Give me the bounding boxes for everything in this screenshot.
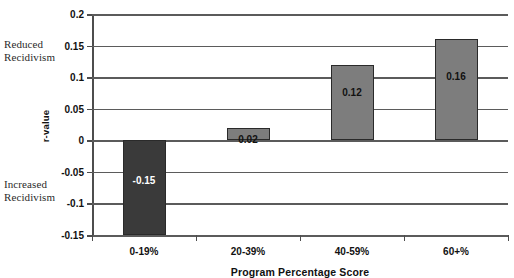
- y-axis-title: r-value: [40, 96, 51, 156]
- bar: [435, 39, 478, 140]
- y-axis-tick: [87, 172, 92, 174]
- bar: [331, 65, 374, 141]
- y-axis-tick: [87, 140, 92, 142]
- x-axis-tick: [404, 235, 405, 241]
- y-axis-tick: [87, 109, 92, 111]
- annotation-reduced-recidivism: Reduced Recidivism: [4, 38, 55, 64]
- y-axis-tick-label: 0.2: [70, 9, 84, 20]
- annotation-increased-recidivism: Increased Recidivism: [4, 178, 55, 204]
- y-axis-tick-label: -0.05: [61, 166, 84, 177]
- x-axis-title: Program Percentage Score: [92, 266, 508, 278]
- y-axis-line: [92, 14, 94, 235]
- x-axis-category-label: 0-19%: [130, 246, 159, 257]
- x-axis-tick: [92, 235, 93, 241]
- y-axis-tick: [87, 203, 92, 205]
- gridline: [92, 14, 508, 16]
- bar: [123, 140, 166, 235]
- y-axis-tick-label: 0.15: [65, 40, 84, 51]
- x-axis-tick: [196, 235, 197, 241]
- y-axis-tick-label: 0: [78, 135, 84, 146]
- x-axis-tick: [300, 235, 301, 241]
- y-axis-tick-label: -0.15: [61, 230, 84, 241]
- x-axis-category-label: 60+%: [443, 246, 469, 257]
- x-axis-category-label: 40-59%: [335, 246, 369, 257]
- bar-value-label: -0.15: [133, 175, 156, 186]
- y-axis-tick-label: -0.1: [67, 198, 84, 209]
- y-axis-tick: [87, 77, 92, 79]
- bar-value-label: 0.02: [238, 134, 257, 145]
- bar-value-label: 0.12: [342, 86, 361, 97]
- plot-area: 0.20.150.10.050-0.05-0.1-0.15 -0.150.020…: [92, 14, 508, 235]
- bar-value-label: 0.16: [446, 70, 465, 81]
- x-axis-category-label: 20-39%: [231, 246, 265, 257]
- y-axis-tick: [87, 46, 92, 48]
- y-axis-tick-label: 0.1: [70, 72, 84, 83]
- x-axis-tick: [508, 235, 509, 241]
- y-axis-tick-label: 0.05: [65, 103, 84, 114]
- y-axis-tick: [87, 14, 92, 16]
